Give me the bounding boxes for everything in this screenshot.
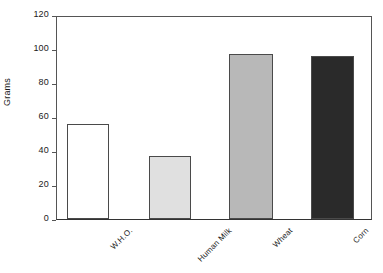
y-axis-tick-mark (52, 220, 56, 221)
y-axis-tick: 120 (0, 16, 56, 17)
bar (229, 54, 273, 219)
bar-chart: Grams 020406080100120 W.H.O.Human MilkWh… (0, 0, 383, 273)
y-axis-tick-label: 60 (39, 111, 49, 121)
y-axis-tick-label: 0 (44, 213, 49, 223)
y-axis-tick: 60 (0, 118, 56, 119)
plot-area (56, 16, 372, 220)
bar (149, 156, 191, 219)
y-axis-tick: 80 (0, 84, 56, 85)
y-axis-tick: 40 (0, 152, 56, 153)
y-axis-tick-label: 20 (39, 179, 49, 189)
x-axis-label: W.H.O. (109, 226, 134, 251)
x-axis-label: Corn (351, 226, 370, 245)
y-axis-tick-label: 80 (39, 77, 49, 87)
y-axis-title: Grams (2, 36, 16, 106)
x-axis-label: Human Milk (196, 226, 234, 264)
y-axis-tick-label: 100 (33, 43, 49, 53)
y-axis-tick: 20 (0, 186, 56, 187)
x-axis-label: Wheat (271, 226, 294, 249)
bar (67, 124, 109, 219)
y-axis-tick-label: 120 (33, 9, 49, 19)
y-axis-tick: 100 (0, 50, 56, 51)
bar (311, 56, 354, 219)
y-axis-tick: 0 (0, 220, 56, 221)
y-axis-tick-label: 40 (39, 145, 49, 155)
